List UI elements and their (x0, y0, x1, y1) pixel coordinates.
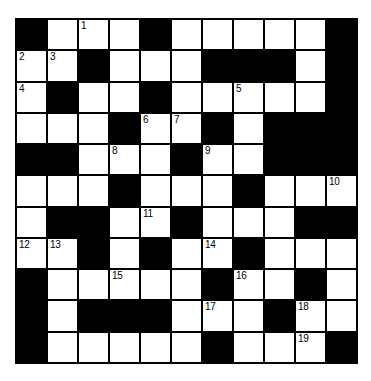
grid-cell-open[interactable] (295, 82, 326, 113)
grid-cell-open[interactable]: 14 (202, 238, 233, 269)
grid-cell-open[interactable] (264, 238, 295, 269)
grid-cell-open[interactable] (171, 19, 202, 50)
grid-cell-open[interactable] (233, 144, 264, 175)
grid-cell-open[interactable] (140, 144, 171, 175)
grid-cell-open[interactable]: 8 (109, 144, 140, 175)
grid-cell-open[interactable] (78, 175, 109, 206)
grid-cell-open[interactable] (171, 332, 202, 363)
grid-cell-open[interactable] (171, 300, 202, 331)
grid-cell-open[interactable] (171, 50, 202, 81)
grid-cell-open[interactable]: 19 (295, 332, 326, 363)
clue-number: 4 (19, 83, 24, 94)
grid-cell-open[interactable] (16, 175, 47, 206)
grid-cell-open[interactable] (47, 332, 78, 363)
grid-cell-open[interactable] (47, 300, 78, 331)
grid-cell-open[interactable] (295, 50, 326, 81)
grid-cell-open[interactable]: 15 (109, 269, 140, 300)
grid-cell-block (140, 238, 171, 269)
grid-cell-open[interactable]: 9 (202, 144, 233, 175)
grid-cell-open[interactable] (233, 207, 264, 238)
grid-cell-open[interactable]: 3 (47, 50, 78, 81)
grid-cell-open[interactable] (78, 144, 109, 175)
grid-cell-open[interactable]: 16 (233, 269, 264, 300)
grid-cell-open[interactable] (109, 19, 140, 50)
clue-number: 13 (50, 239, 61, 250)
grid-cell-open[interactable] (233, 19, 264, 50)
grid-cell-open[interactable] (264, 332, 295, 363)
grid-cell-open[interactable] (78, 332, 109, 363)
grid-cell-open[interactable] (47, 175, 78, 206)
clue-number: 10 (329, 176, 340, 187)
grid-cell-open[interactable]: 6 (140, 113, 171, 144)
clue-number: 7 (174, 114, 179, 125)
grid-cell-open[interactable] (295, 19, 326, 50)
grid-cell-open[interactable]: 13 (47, 238, 78, 269)
grid-cell-open[interactable]: 2 (16, 50, 47, 81)
grid-cell-open[interactable] (202, 19, 233, 50)
clue-number: 2 (19, 51, 24, 62)
grid-cell-open[interactable] (233, 332, 264, 363)
grid-cell-open[interactable] (47, 269, 78, 300)
grid-cell-open[interactable] (109, 50, 140, 81)
grid-cell-open[interactable] (171, 238, 202, 269)
grid-cell-open[interactable] (16, 113, 47, 144)
grid-cell-open[interactable] (326, 300, 357, 331)
grid-cell-open[interactable] (233, 113, 264, 144)
grid-cell-block (171, 144, 202, 175)
clue-number: 11 (143, 208, 153, 219)
grid-cell-open[interactable] (202, 82, 233, 113)
grid-cell-open[interactable]: 10 (326, 175, 357, 206)
grid-cell-open[interactable] (233, 300, 264, 331)
grid-cell-open[interactable] (171, 82, 202, 113)
grid-cell-open[interactable] (295, 175, 326, 206)
grid-cell-open[interactable]: 11 (140, 207, 171, 238)
grid-cell-open[interactable] (326, 238, 357, 269)
grid-cell-open[interactable] (264, 207, 295, 238)
grid-cell-open[interactable] (171, 269, 202, 300)
grid-cell-open[interactable]: 17 (202, 300, 233, 331)
grid-cell-open[interactable] (295, 238, 326, 269)
clue-number: 1 (81, 20, 86, 31)
grid-cell-open[interactable]: 5 (233, 82, 264, 113)
clue-number: 18 (298, 301, 309, 312)
grid-cell-open[interactable] (264, 19, 295, 50)
clue-number: 14 (205, 239, 216, 250)
grid-cell-block (295, 144, 326, 175)
grid-cell-open[interactable]: 7 (171, 113, 202, 144)
grid-cell-open[interactable]: 18 (295, 300, 326, 331)
grid-cell-open[interactable] (264, 82, 295, 113)
clue-number: 8 (112, 145, 117, 156)
grid-cell-block (140, 19, 171, 50)
grid-cell-open[interactable] (140, 332, 171, 363)
grid-cell-open[interactable] (140, 175, 171, 206)
grid-cell-block (326, 207, 357, 238)
grid-cell-block (109, 300, 140, 331)
grid-cell-block (264, 144, 295, 175)
grid-cell-open[interactable] (140, 269, 171, 300)
grid-cell-open[interactable] (109, 207, 140, 238)
grid-cell-open[interactable]: 12 (16, 238, 47, 269)
grid-cell-open[interactable] (264, 175, 295, 206)
grid-cell-open[interactable] (78, 113, 109, 144)
grid-cell-block (78, 207, 109, 238)
grid-cell-open[interactable] (16, 207, 47, 238)
grid-cell-block (47, 82, 78, 113)
grid-cell-open[interactable] (109, 332, 140, 363)
grid-cell-open[interactable] (78, 82, 109, 113)
grid-cell-open[interactable]: 1 (78, 19, 109, 50)
grid-cell-open[interactable] (47, 19, 78, 50)
grid-cell-open[interactable] (109, 238, 140, 269)
grid-cell-open[interactable] (326, 269, 357, 300)
grid-cell-open[interactable] (109, 82, 140, 113)
grid-cell-open[interactable]: 4 (16, 82, 47, 113)
grid-cell-open[interactable] (78, 269, 109, 300)
grid-cell-open[interactable] (202, 207, 233, 238)
grid-cell-open[interactable] (47, 113, 78, 144)
grid-cell-open[interactable] (264, 269, 295, 300)
crossword-grid[interactable]: 12345678910111213141516171819 (15, 18, 358, 364)
grid-cell-open[interactable] (202, 175, 233, 206)
grid-cell-open[interactable] (171, 175, 202, 206)
grid-cell-open[interactable] (140, 50, 171, 81)
grid-cell-block (326, 113, 357, 144)
grid-cell-block (233, 175, 264, 206)
